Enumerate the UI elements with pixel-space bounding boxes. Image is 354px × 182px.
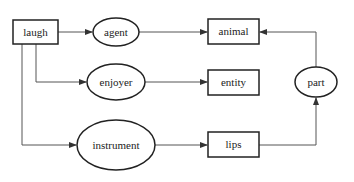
node-label: part bbox=[307, 76, 324, 88]
node-instrument: instrument bbox=[77, 120, 155, 170]
node-animal: animal bbox=[208, 19, 259, 44]
node-label: laugh bbox=[23, 26, 48, 38]
node-label: enjoyer bbox=[100, 76, 133, 88]
edge-lips-part bbox=[259, 98, 316, 145]
node-label: instrument bbox=[92, 139, 139, 151]
node-entity: entity bbox=[208, 70, 259, 95]
node-laugh: laugh bbox=[13, 20, 58, 44]
edge-laugh-enjoyer bbox=[36, 44, 86, 82]
edge-laugh-instrument bbox=[22, 44, 76, 145]
node-label: entity bbox=[221, 76, 247, 88]
node-label: animal bbox=[219, 25, 249, 37]
node-enjoyer: enjoyer bbox=[87, 64, 145, 100]
node-label: agent bbox=[104, 26, 128, 38]
node-agent: agent bbox=[93, 18, 139, 46]
edges bbox=[22, 32, 316, 145]
conceptual-graph-diagram: laugh agent enjoyer instrument animal en… bbox=[0, 0, 354, 182]
node-lips: lips bbox=[208, 132, 259, 157]
node-part: part bbox=[295, 67, 337, 97]
edge-part-animal bbox=[260, 32, 316, 67]
node-label: lips bbox=[226, 138, 242, 150]
